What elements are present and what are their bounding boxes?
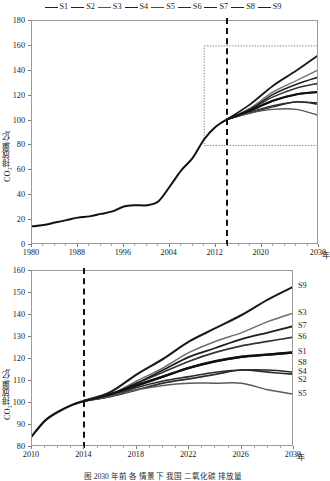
top-xtick-minor [238, 244, 239, 246]
bottom-xtick-minor [44, 446, 45, 448]
legend-item-s4[interactable]: S4 [125, 3, 149, 11]
top-xtick-minor [134, 244, 135, 246]
top-xtick-mark-2004 [169, 244, 170, 247]
bottom-xtick-minor [70, 446, 71, 448]
figure-caption: 图 2030 年前 各 情景 下 我国 二氧化碳 排放量 [0, 470, 326, 481]
legend-item-s6[interactable]: S6 [178, 3, 202, 11]
top-xaxis-unit: 年 [322, 248, 330, 260]
bottom-xtick-minor [228, 446, 229, 448]
bottom-ytick-110: 110 [0, 376, 25, 385]
legend-swatch-s5 [151, 7, 164, 8]
top-historical-curve [32, 119, 227, 226]
bottom-chart-curves [32, 271, 293, 446]
bottom-series-s4 [84, 370, 293, 401]
top-xtick-minor [192, 244, 193, 246]
top-xtick-minor [42, 244, 43, 246]
legend-item-s9[interactable]: S9 [258, 3, 282, 11]
top-xtick-mark-2020 [261, 244, 262, 247]
top-xtick-minor [272, 244, 273, 246]
top-xtick-mark-1996 [123, 244, 124, 247]
top-xtick-2012: 2012 [206, 248, 222, 257]
legend-label-s9: S9 [273, 3, 282, 11]
legend-item-s1[interactable]: S1 [45, 3, 69, 11]
bottom-xtick-2022: 2022 [180, 450, 196, 459]
legend-swatch-s1 [45, 7, 58, 8]
legend-item-s2[interactable]: S2 [71, 3, 95, 11]
bottom-endlabel-s7: S7 [298, 321, 307, 330]
top-xtick-minor [88, 244, 89, 246]
top-xtick-minor [203, 244, 204, 246]
top-xtick-1988: 1988 [69, 248, 85, 257]
bottom-ytick-130: 130 [0, 332, 25, 341]
bottom-endlabel-s1: S1 [298, 347, 307, 356]
bottom-endlabel-s9: S9 [298, 281, 307, 290]
legend-label-s5: S5 [166, 3, 175, 11]
bottom-baseyear-dashed-line [83, 268, 85, 448]
bottom-xtick-minor [123, 446, 124, 448]
top-baseyear-dashed-line [226, 18, 228, 246]
top-ytick-40: 40 [0, 190, 25, 199]
bottom-ytick-mark-160 [28, 270, 31, 271]
legend-swatch-s2 [71, 7, 84, 8]
bottom-xtick-mark-2014 [83, 446, 84, 449]
top-xtick-2020: 2020 [252, 248, 268, 257]
legend-swatch-s8 [231, 7, 244, 8]
top-ytick-140: 140 [0, 65, 25, 74]
top-xtick-1996: 1996 [115, 248, 131, 257]
top-ytick-mark-180 [28, 20, 31, 21]
top-xtick-minor [307, 244, 308, 246]
bottom-xtick-minor [57, 446, 58, 448]
top-xtick-minor [284, 244, 285, 246]
legend-label-s7: S7 [219, 3, 228, 11]
top-xtick-minor [249, 244, 250, 246]
bottom-xtick-2026: 2026 [232, 450, 248, 459]
bottom-ytick-mark-140 [28, 314, 31, 315]
legend-label-s3: S3 [113, 3, 122, 11]
bottom-ytick-mark-100 [28, 402, 31, 403]
top-xtick-minor [226, 244, 227, 246]
bottom-chart-plot-area [31, 270, 293, 446]
bottom-xaxis-unit: 年 [297, 450, 305, 462]
top-xtick-mark-2012 [215, 244, 216, 247]
top-xtick-minor [65, 244, 66, 246]
legend-swatch-s6 [178, 7, 191, 8]
bottom-endlabel-s5: S5 [298, 389, 307, 398]
bottom-ytick-mark-90 [28, 424, 31, 425]
bottom-endlabel-s2: S2 [298, 374, 307, 383]
bottom-xtick-2014: 2014 [75, 450, 91, 459]
top-xtick-mark-2030 [318, 244, 319, 247]
bottom-endlabel-s6: S6 [298, 332, 307, 341]
legend-swatch-s3 [98, 7, 111, 8]
legend-swatch-s4 [125, 7, 138, 8]
legend-item-s3[interactable]: S3 [98, 3, 122, 11]
legend-swatch-s9 [258, 7, 271, 8]
top-ytick-mark-80 [28, 144, 31, 145]
bottom-series-s2 [84, 370, 293, 401]
bottom-xtick-mark-2018 [136, 446, 137, 449]
top-xtick-mark-1988 [77, 244, 78, 247]
bottom-ytick-140: 140 [0, 310, 25, 319]
bottom-ytick-mark-150 [28, 292, 31, 293]
legend-item-s8[interactable]: S8 [231, 3, 255, 11]
bottom-endlabel-s8: S8 [298, 357, 307, 366]
legend-item-s5[interactable]: S5 [151, 3, 175, 11]
bottom-ytick-mark-120 [28, 358, 31, 359]
top-chart-plot-area [31, 20, 318, 244]
bottom-ytick-mark-110 [28, 380, 31, 381]
legend-item-s7[interactable]: S7 [204, 3, 228, 11]
bottom-xtick-minor [97, 446, 98, 448]
bottom-xtick-mark-2010 [31, 446, 32, 449]
top-xtick-1980: 1980 [23, 248, 39, 257]
top-ytick-160: 160 [0, 40, 25, 49]
top-ytick-60: 60 [0, 165, 25, 174]
top-ytick-mark-160 [28, 45, 31, 46]
bottom-ytick-150: 150 [0, 288, 25, 297]
bottom-ytick-80: 80 [0, 442, 25, 451]
legend-label-s2: S2 [86, 3, 95, 11]
top-xtick-minor [111, 244, 112, 246]
bottom-xtick-minor [149, 446, 150, 448]
legend-label-s1: S1 [60, 3, 69, 11]
top-ytick-mark-20 [28, 219, 31, 220]
top-xtick-minor [100, 244, 101, 246]
